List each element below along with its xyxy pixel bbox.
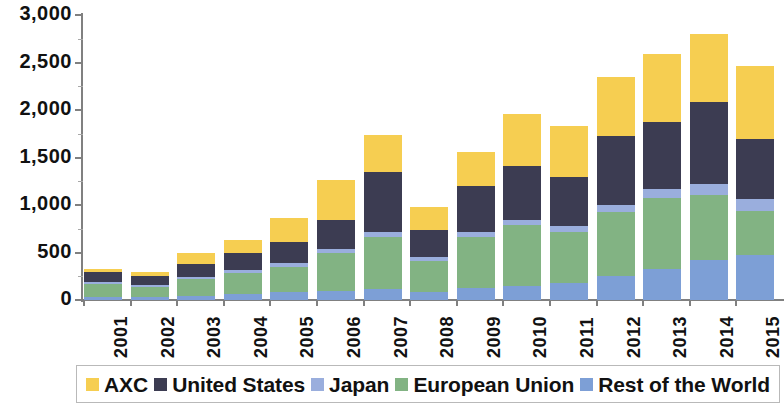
legend-label: AXC: [104, 374, 148, 395]
bar-segment: [270, 292, 308, 300]
bar-segment: [317, 291, 355, 300]
bar-segment: [690, 34, 728, 102]
bar-2006: [317, 180, 355, 300]
x-axis-label-2012: 2012: [624, 316, 645, 358]
bar-segment: [224, 253, 262, 270]
bar-2009: [457, 152, 495, 300]
x-axis-tick: [316, 300, 318, 306]
legend-swatch-icon: [154, 378, 167, 391]
bar-segment: [503, 225, 541, 286]
x-axis-label-2011: 2011: [577, 317, 598, 358]
x-axis-label-2009: 2009: [484, 316, 505, 358]
y-axis-label: 2,000: [0, 98, 72, 118]
bar-2013: [643, 54, 681, 300]
x-axis-tick: [502, 300, 504, 306]
bar-segment: [597, 276, 635, 300]
x-axis-tick: [549, 300, 551, 306]
bar-segment: [503, 220, 541, 225]
bar-2002: [131, 272, 169, 300]
bar-segment: [270, 267, 308, 293]
x-axis-tick: [223, 300, 225, 306]
x-axis-tick: [269, 300, 271, 306]
bar-segment: [736, 66, 774, 139]
y-axis-label: 0: [0, 288, 72, 308]
x-axis-tick: [83, 300, 85, 306]
bar-segment: [270, 263, 308, 266]
x-axis-label-2007: 2007: [391, 316, 412, 358]
bar-2007: [364, 135, 402, 300]
bar-2008: [410, 207, 448, 300]
legend-item[interactable]: AXC: [86, 374, 148, 395]
bar-segment: [131, 297, 169, 300]
legend-swatch-icon: [311, 378, 324, 391]
bar-segment: [597, 212, 635, 277]
plot-area: [82, 15, 784, 300]
legend-item[interactable]: United States: [154, 374, 305, 395]
bar-segment: [690, 184, 728, 194]
x-axis-tick: [363, 300, 365, 306]
bar-segment: [177, 277, 215, 279]
bar-segment: [597, 205, 635, 212]
bar-segment: [364, 172, 402, 232]
bar-segment: [84, 297, 122, 300]
x-axis-label-2002: 2002: [158, 316, 179, 358]
bar-segment: [410, 257, 448, 261]
bar-segment: [364, 232, 402, 237]
bar-segment: [84, 282, 122, 284]
x-axis-label-2010: 2010: [530, 316, 551, 358]
bar-segment: [643, 189, 681, 198]
bar-segment: [84, 272, 122, 282]
legend-swatch-icon: [395, 378, 408, 391]
bar-segment: [550, 126, 588, 177]
bar-segment: [736, 255, 774, 300]
bar-segment: [457, 186, 495, 233]
bar-segment: [131, 285, 169, 287]
x-axis-tick: [642, 300, 644, 306]
bar-segment: [550, 177, 588, 226]
legend-item[interactable]: Japan: [311, 374, 389, 395]
bar-segment: [643, 269, 681, 300]
bar-segment: [131, 287, 169, 297]
legend-item[interactable]: Rest of the World: [580, 374, 770, 395]
x-axis-tick: [130, 300, 132, 306]
y-axis-label: 1,000: [0, 193, 72, 213]
x-axis-tick: [409, 300, 411, 306]
bar-2012: [597, 77, 635, 300]
bar-segment: [503, 166, 541, 220]
bar-segment: [597, 77, 635, 136]
bar-segment: [317, 180, 355, 219]
x-axis-label-2014: 2014: [717, 316, 738, 358]
bar-segment: [177, 264, 215, 277]
legend-item[interactable]: European Union: [395, 374, 574, 395]
bar-segment: [690, 260, 728, 300]
bar-segment: [177, 296, 215, 300]
x-axis-tick: [596, 300, 598, 306]
bar-segment: [410, 207, 448, 229]
legend-label: Japan: [329, 374, 389, 395]
bar-2011: [550, 126, 588, 300]
x-axis-label-2001: 2001: [111, 316, 132, 358]
bar-segment: [410, 230, 448, 257]
bar-segment: [177, 279, 215, 296]
bar-segment: [643, 198, 681, 268]
x-axis-tick: [689, 300, 691, 306]
bar-segment: [270, 218, 308, 241]
y-axis-label: 2,500: [0, 51, 72, 71]
chart-legend: AXCUnited StatesJapanEuropean UnionRest …: [76, 365, 780, 403]
bar-segment: [503, 114, 541, 165]
bar-2001: [84, 269, 122, 300]
bar-segment: [317, 220, 355, 249]
legend-label: United States: [172, 374, 305, 395]
x-axis-tick: [176, 300, 178, 306]
y-axis-label: 3,000: [0, 3, 72, 23]
bar-segment: [643, 122, 681, 189]
bar-segment: [364, 135, 402, 172]
bar-segment: [690, 195, 728, 261]
legend-label: Rest of the World: [598, 374, 770, 395]
bar-segment: [224, 273, 262, 294]
legend-label: European Union: [413, 374, 574, 395]
bar-2014: [690, 34, 728, 300]
legend-swatch-icon: [86, 378, 99, 391]
bar-segment: [364, 289, 402, 300]
bar-segment: [224, 240, 262, 253]
